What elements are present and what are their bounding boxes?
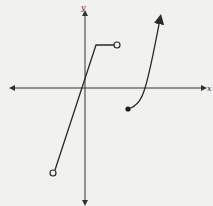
open-circle-end <box>114 42 120 48</box>
closed-dot-start <box>125 106 130 111</box>
open-circle-start <box>50 170 56 176</box>
x-axis-label: x <box>207 84 212 93</box>
y-axis-label: y <box>80 3 86 12</box>
curve-piece <box>125 19 160 112</box>
graph-canvas: x y <box>0 0 213 206</box>
